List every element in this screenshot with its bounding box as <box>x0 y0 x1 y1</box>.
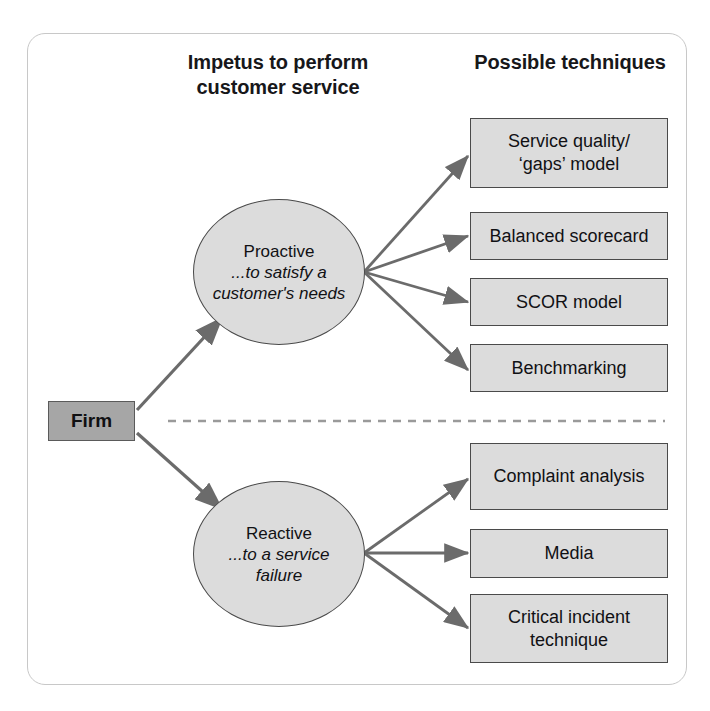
technique-box-scor-model: SCOR model <box>470 278 668 326</box>
diagram-canvas: Impetus to perform customer service Poss… <box>0 0 710 711</box>
technique-label-line1: Balanced scorecard <box>489 225 648 248</box>
arrow-firm-to-reactive <box>137 433 222 509</box>
column-heading-impetus-line1: Impetus to perform <box>150 50 406 75</box>
arrow-reactive-to-technique-1 <box>364 479 468 553</box>
technique-label-line1: Service quality/ <box>508 130 630 153</box>
node-reactive-title: Reactive <box>246 523 312 544</box>
arrow-reactive-to-technique-3 <box>364 553 468 628</box>
technique-label-line1: Critical incident <box>508 606 630 629</box>
technique-box-complaint-analysis: Complaint analysis <box>470 443 668 510</box>
technique-label-line2: ‘gaps’ model <box>508 153 630 176</box>
node-proactive: Proactive ...to satisfy a customer's nee… <box>193 199 365 345</box>
technique-box-service-quality-gaps-model: Service quality/ ‘gaps’ model <box>470 118 668 188</box>
technique-label-line1: SCOR model <box>516 291 622 314</box>
technique-box-media: Media <box>470 529 668 578</box>
technique-label-line1: Benchmarking <box>511 357 626 380</box>
node-reactive-subtitle: ...to a service failure <box>209 544 349 586</box>
column-heading-impetus-line2: customer service <box>150 75 406 100</box>
technique-box-critical-incident-technique: Critical incident technique <box>470 594 668 663</box>
node-proactive-title: Proactive <box>244 241 315 262</box>
column-heading-techniques: Possible techniques <box>455 50 685 75</box>
technique-label-line1: Complaint analysis <box>493 465 644 488</box>
technique-label-line1: Media <box>544 542 593 565</box>
node-reactive: Reactive ...to a service failure <box>193 481 365 627</box>
technique-label-line2: technique <box>508 629 630 652</box>
arrow-firm-to-proactive <box>137 318 222 410</box>
node-firm: Firm <box>48 401 135 441</box>
technique-box-balanced-scorecard: Balanced scorecard <box>470 212 668 260</box>
technique-box-benchmarking: Benchmarking <box>470 344 668 392</box>
node-proactive-subtitle: ...to satisfy a customer's needs <box>209 262 349 304</box>
column-heading-impetus: Impetus to perform customer service <box>150 50 406 100</box>
